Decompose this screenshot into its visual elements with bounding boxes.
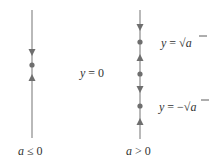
arrow-down-icon bbox=[29, 49, 36, 56]
label-equilibrium-neg-sqrt: y = −√a bbox=[159, 101, 196, 113]
caption-var: a bbox=[18, 144, 24, 158]
label-equilibrium-pos-sqrt: y = √a bbox=[161, 37, 192, 49]
label-var: y bbox=[161, 36, 166, 50]
equilibrium-dot bbox=[137, 71, 142, 76]
arrow-up-icon bbox=[137, 118, 144, 125]
label-eq: = √ bbox=[169, 36, 185, 50]
label-equilibrium-zero: y = 0 bbox=[80, 67, 104, 79]
arrow-up-icon bbox=[29, 74, 36, 81]
equilibrium-dot bbox=[29, 62, 34, 67]
phase-line-a-nonpositive bbox=[29, 10, 36, 138]
caption-rel: > 0 bbox=[135, 144, 151, 158]
equilibrium-dot bbox=[137, 39, 142, 44]
phase-line-a-positive bbox=[137, 10, 144, 139]
arrow-down-icon bbox=[137, 24, 144, 31]
phase-line-diagram bbox=[0, 0, 217, 162]
label-eq: = −√ bbox=[167, 100, 190, 114]
caption-rel: ≤ 0 bbox=[27, 144, 43, 158]
arrow-up-icon bbox=[137, 54, 144, 61]
caption-a-nonpositive: a ≤ 0 bbox=[18, 145, 43, 157]
label-eq: = 0 bbox=[88, 66, 104, 80]
label-radicand: a bbox=[190, 100, 196, 114]
label-radicand: a bbox=[186, 36, 192, 50]
label-var: y bbox=[159, 100, 164, 114]
caption-var: a bbox=[126, 144, 132, 158]
label-var: y bbox=[80, 66, 85, 80]
caption-a-positive: a > 0 bbox=[126, 145, 151, 157]
arrow-down-icon bbox=[137, 86, 144, 93]
equilibrium-dot bbox=[137, 103, 142, 108]
